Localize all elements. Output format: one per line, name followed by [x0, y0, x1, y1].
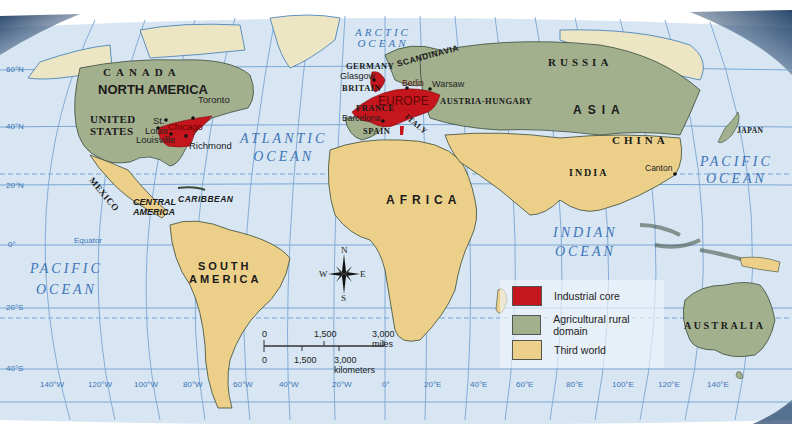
lon-label-100w: 100°W	[134, 381, 158, 389]
world-map: ARCTICOCEAN ATLANTICOCEAN PACIFICOCEAN P…	[0, 0, 792, 448]
city-label-richmond: Richmond	[189, 141, 232, 151]
continent-label-south-america: SOUTHAMERICA	[198, 261, 261, 285]
region-label-central-america: CENTRALAMERICA	[133, 198, 176, 218]
city-label-canton: Canton	[645, 164, 672, 173]
legend-label: Industrial core	[554, 290, 620, 302]
lat-label-20s: 20°S	[6, 304, 23, 312]
lon-label-80w: 80°W	[183, 381, 203, 389]
legend-swatch-third-world	[512, 340, 542, 360]
ocean-label-indian: INDIANOCEAN	[553, 226, 618, 259]
legend-label: Agricultural rural domain	[553, 313, 664, 337]
country-label-japan: JAPAN	[737, 127, 764, 135]
lon-label-60e: 60°E	[516, 381, 533, 389]
ocean-label-pacific-west: PACIFICOCEAN	[30, 262, 103, 297]
compass-s: S	[341, 294, 346, 303]
country-label-germany: GERMANY	[346, 62, 394, 71]
legend-item-industrial-core: Industrial core	[512, 286, 620, 306]
bottom-margin	[0, 424, 792, 448]
continent-label-asia: ASIA	[573, 104, 626, 116]
scale-km-1500: 1,500	[294, 355, 317, 365]
legend-label: Third world	[554, 344, 606, 356]
continent-label-africa: AFRICA	[386, 194, 461, 206]
compass-n: N	[341, 246, 348, 255]
country-label-india: INDIA	[569, 168, 608, 178]
country-label-britain: BRITAIN	[342, 84, 381, 93]
lon-label-60w: 60°W	[233, 381, 253, 389]
lon-label-100e: 100°E	[612, 381, 634, 389]
scale-bar: 0 1,500 3,000 miles 0 1,500 3,000 kilome…	[258, 326, 378, 366]
country-label-spain: SPAIN	[363, 127, 390, 136]
lon-label-120w: 120°W	[88, 381, 112, 389]
country-label-austria-hungary: AUSTRIA-HUNGARY	[440, 97, 532, 106]
country-label-australia: AUSTRALIA	[684, 321, 765, 331]
ocean-label-arctic: ARCTICOCEAN	[355, 27, 411, 49]
ocean-label-pacific-east: PACIFICOCEAN	[700, 155, 773, 186]
country-label-russia: RUSSIA	[548, 57, 612, 68]
lat-label-20n: 20°N	[6, 182, 24, 190]
lon-label-20w: 20°W	[332, 381, 352, 389]
legend-item-third-world: Third world	[512, 340, 606, 360]
city-label-warsaw: Warsaw	[432, 80, 464, 89]
lon-label-20e: 20°E	[424, 381, 441, 389]
lon-label-120e: 120°E	[658, 381, 680, 389]
region-label-caribbean: CARIBBEAN	[178, 195, 234, 204]
map-legend: Industrial core Agricultural rural domai…	[500, 280, 664, 368]
lat-label-0: 0°	[8, 241, 16, 249]
compass-e: E	[360, 270, 366, 279]
ocean-label-atlantic: ATLANTICOCEAN	[240, 132, 327, 164]
country-label-canada: CANADA	[103, 67, 181, 78]
compass-w: W	[319, 270, 328, 279]
lat-label-40s: 40°S	[6, 365, 23, 373]
scale-miles-3000: 3,000 miles	[372, 329, 395, 349]
city-label-glasgow: Glasgow	[340, 72, 375, 81]
country-label-china: CHINA	[612, 135, 669, 146]
equator-label: Equator	[74, 237, 102, 245]
city-label-louisville: Louisville	[136, 135, 175, 145]
country-label-united-states: UNITEDSTATES	[90, 114, 136, 137]
city-label-barcelona: Barcelona	[342, 114, 380, 123]
lon-label-140e: 140°E	[707, 381, 729, 389]
city-label-chicago: Chicago	[168, 122, 203, 132]
country-label-france: FRANCE	[356, 104, 394, 113]
city-label-berlin: Berlin	[402, 79, 424, 88]
compass-rose: N S W E	[322, 248, 366, 304]
lat-label-40n: 40°N	[6, 123, 24, 131]
scale-km-3000: 3,000 kilometers	[334, 355, 378, 375]
lon-label-40e: 40°E	[470, 381, 487, 389]
lon-label-0: 0°	[382, 381, 390, 389]
city-label-toronto: Toronto	[198, 95, 230, 105]
scale-km-0: 0	[262, 355, 267, 365]
legend-swatch-industrial-core	[512, 286, 542, 306]
scale-miles-1500: 1,500	[314, 329, 337, 339]
continent-label-north-america: NORTH AMERICA	[98, 83, 208, 96]
lat-label-60n: 60°N	[6, 66, 24, 74]
lon-label-40w: 40°W	[279, 381, 299, 389]
legend-item-agricultural-rural: Agricultural rural domain	[512, 313, 664, 337]
legend-swatch-agricultural-rural	[512, 315, 541, 335]
lon-label-80e: 80°E	[566, 381, 583, 389]
scale-miles-0: 0	[262, 329, 267, 339]
lon-label-140w: 140°W	[40, 381, 64, 389]
